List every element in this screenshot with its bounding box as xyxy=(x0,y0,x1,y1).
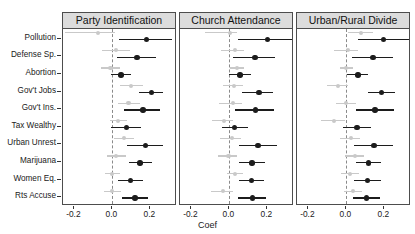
estimate-point xyxy=(230,136,234,140)
estimate-point xyxy=(372,107,377,112)
y-axis-tick xyxy=(57,126,61,127)
y-axis-tick xyxy=(57,91,61,92)
y-axis-tick-label: Pollution xyxy=(25,34,56,42)
estimate-point xyxy=(354,125,359,130)
estimate-point xyxy=(122,136,126,140)
estimate-point xyxy=(355,72,360,77)
estimate-point xyxy=(344,66,348,70)
estimate-point xyxy=(226,154,230,158)
estimate-point xyxy=(256,90,261,95)
coefficient-plot-figure: PollutionDefense Sp.AbortionGov't JobsGo… xyxy=(0,0,415,234)
confidence-interval xyxy=(65,32,115,33)
estimate-point xyxy=(140,107,145,112)
facet-strip: Church Attendance xyxy=(179,12,293,29)
estimate-point xyxy=(370,55,375,60)
estimate-point xyxy=(128,178,133,183)
estimate-point xyxy=(249,160,254,165)
y-axis-tick-label: Gov't Ins. xyxy=(22,104,56,112)
facet-strip: Urban/Rural Divide xyxy=(296,12,410,29)
estimate-point xyxy=(366,160,371,165)
facet-strip: Party Identification xyxy=(62,12,176,29)
estimate-point xyxy=(371,143,376,148)
estimate-point xyxy=(221,189,225,193)
estimate-point xyxy=(149,90,154,95)
x-axis-tick-label: 0.0 xyxy=(106,210,118,219)
estimate-point xyxy=(253,107,258,112)
zero-reference-line xyxy=(112,29,113,204)
zero-reference-line xyxy=(346,29,347,204)
estimate-point xyxy=(233,48,237,52)
y-axis-tick-label: Rts Accuse xyxy=(15,192,56,200)
estimate-point xyxy=(348,172,352,176)
estimate-point xyxy=(108,66,112,70)
estimate-point xyxy=(96,31,100,35)
estimate-point xyxy=(364,195,369,200)
estimate-point xyxy=(110,189,114,193)
estimate-point xyxy=(365,178,370,183)
y-axis-tick-label: Defense Sp. xyxy=(11,51,56,59)
y-axis-tick-label: Tax Wealthy xyxy=(12,122,56,130)
y-axis-tick-label: Women Eq. xyxy=(13,174,56,182)
estimate-point xyxy=(124,125,129,130)
estimate-point xyxy=(250,195,255,200)
estimate-point xyxy=(233,172,237,176)
estimate-point xyxy=(143,143,148,148)
estimate-point xyxy=(237,72,242,77)
x-axis-title: Coef xyxy=(0,220,415,230)
estimate-point xyxy=(118,72,123,77)
estimate-point xyxy=(252,55,257,60)
x-axis-tick-label: 0.2 xyxy=(261,210,273,219)
estimate-point xyxy=(132,195,137,200)
estimate-point xyxy=(265,37,270,42)
estimate-point xyxy=(231,101,235,105)
estimate-point xyxy=(235,66,239,70)
panel-plot-area xyxy=(296,29,410,205)
estimate-point xyxy=(126,101,130,105)
estimate-point xyxy=(349,136,353,140)
estimate-point xyxy=(114,48,118,52)
y-axis-tick xyxy=(57,179,61,180)
estimate-point xyxy=(336,84,340,88)
facet-strip-title: Party Identification xyxy=(76,15,162,26)
y-axis: PollutionDefense Sp.AbortionGov't JobsGo… xyxy=(0,0,62,234)
x-axis-tick-label: -0.2 xyxy=(66,210,80,219)
y-axis-tick-label: Abortion xyxy=(26,69,57,77)
estimate-point xyxy=(379,90,384,95)
estimate-point xyxy=(255,143,260,148)
estimate-point xyxy=(232,125,237,130)
estimate-point xyxy=(144,37,149,42)
estimate-point xyxy=(116,119,120,123)
y-axis-tick xyxy=(57,38,61,39)
estimate-point xyxy=(222,119,226,123)
estimate-point xyxy=(353,154,357,158)
estimate-point xyxy=(332,119,336,123)
estimate-point xyxy=(137,160,142,165)
x-axis-tick-label: -0.2 xyxy=(300,210,314,219)
y-axis-tick-label: Urban Unrest xyxy=(7,139,56,147)
panel-plot-area xyxy=(62,29,176,205)
y-axis-tick-label: Marijuana xyxy=(20,157,56,165)
y-axis-tick-label: Gov't Jobs xyxy=(18,86,56,94)
x-axis-tick-label: 0.2 xyxy=(144,210,156,219)
estimate-point xyxy=(232,84,236,88)
estimate-point xyxy=(359,31,363,35)
zero-reference-line xyxy=(229,29,230,204)
facet-strip-title: Urban/Rural Divide xyxy=(309,15,398,26)
confidence-interval xyxy=(205,32,237,33)
y-axis-tick xyxy=(57,143,61,144)
y-axis-tick xyxy=(57,55,61,56)
estimate-point xyxy=(344,101,348,105)
x-axis-tick-label: 0.0 xyxy=(340,210,352,219)
estimate-point xyxy=(346,48,350,52)
panel-plot-area xyxy=(179,29,293,205)
estimate-point xyxy=(381,37,386,42)
facet-strip-title: Church Attendance xyxy=(191,15,280,26)
y-axis-tick xyxy=(57,108,61,109)
y-axis-tick xyxy=(57,161,61,162)
estimate-point xyxy=(351,189,355,193)
estimate-point xyxy=(134,55,139,60)
y-axis-tick xyxy=(57,73,61,74)
x-axis-tick-label: -0.2 xyxy=(183,210,197,219)
x-axis-tick-label: 0.0 xyxy=(223,210,235,219)
y-axis-tick xyxy=(57,196,61,197)
